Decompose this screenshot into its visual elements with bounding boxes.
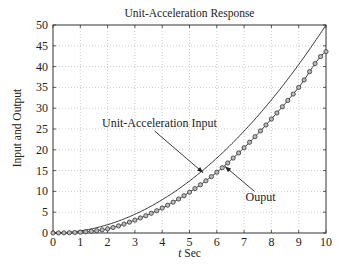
output-marker — [204, 179, 208, 183]
annotation-input-label: Unit-Acceleration Input — [102, 116, 218, 130]
output-marker — [144, 214, 148, 218]
output-marker — [51, 231, 55, 235]
output-marker — [127, 220, 131, 224]
output-marker — [308, 70, 312, 74]
output-marker — [286, 98, 290, 102]
output-marker — [155, 209, 159, 213]
output-marker — [160, 206, 164, 210]
output-marker — [89, 229, 93, 233]
output-marker — [226, 161, 230, 165]
chart-title: Unit-Acceleration Response — [53, 7, 326, 19]
output-marker — [84, 230, 88, 234]
y-tick-label: 15 — [36, 164, 48, 178]
output-marker — [67, 231, 71, 235]
output-marker — [264, 123, 268, 127]
output-marker — [73, 230, 77, 234]
output-marker — [198, 183, 202, 187]
x-axis-label: t Sec — [53, 247, 326, 259]
y-tick-label: 50 — [36, 18, 48, 32]
y-tick-label: 20 — [36, 143, 48, 157]
y-tick-label: 0 — [42, 226, 48, 240]
y-tick-label: 35 — [36, 80, 48, 94]
chart-svg: 01234567891005101520253035404550Unit-Acc… — [0, 0, 346, 267]
output-marker — [78, 230, 82, 234]
y-tick-label: 40 — [36, 60, 48, 74]
output-marker — [193, 186, 197, 190]
output-marker — [297, 85, 301, 89]
output-marker — [280, 105, 284, 109]
output-marker — [324, 50, 328, 54]
annotation-output-label: Ouput — [245, 190, 276, 204]
y-tick-label: 30 — [36, 101, 48, 115]
output-marker — [291, 92, 295, 96]
annotation-arrow-line — [154, 131, 203, 173]
output-marker — [133, 218, 137, 222]
output-marker — [231, 156, 235, 160]
output-marker — [220, 166, 224, 170]
output-marker — [166, 203, 170, 207]
output-marker — [176, 197, 180, 201]
output-marker — [187, 190, 191, 194]
output-marker — [258, 129, 262, 133]
y-axis-label: Input and Output — [11, 73, 23, 183]
output-marker — [100, 228, 104, 232]
output-marker — [269, 117, 273, 121]
output-marker — [247, 140, 251, 144]
output-marker — [116, 224, 120, 228]
x-axis-variable: t — [178, 247, 181, 259]
y-tick-label: 5 — [42, 205, 48, 219]
output-marker — [122, 222, 126, 226]
output-marker — [106, 227, 110, 231]
output-marker — [138, 216, 142, 220]
y-tick-label: 45 — [36, 39, 48, 53]
x-axis-unit: Sec — [184, 247, 201, 259]
output-marker — [318, 54, 322, 58]
output-marker — [56, 231, 60, 235]
y-tick-label: 10 — [36, 184, 48, 198]
output-marker — [149, 211, 153, 215]
output-marker — [215, 170, 219, 174]
output-marker — [209, 175, 213, 179]
output-marker — [253, 135, 257, 139]
output-marker — [62, 231, 66, 235]
output-marker — [242, 146, 246, 150]
output-marker — [111, 225, 115, 229]
y-tick-label: 25 — [36, 122, 48, 136]
output-marker — [237, 151, 241, 155]
output-marker — [95, 229, 99, 233]
output-marker — [313, 61, 317, 65]
output-marker — [171, 200, 175, 204]
output-marker — [275, 111, 279, 115]
output-marker — [182, 194, 186, 198]
output-marker — [302, 78, 306, 82]
